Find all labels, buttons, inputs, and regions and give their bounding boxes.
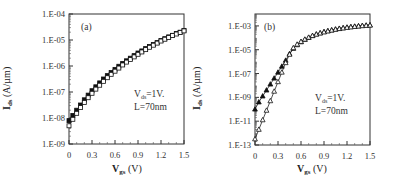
x-tick-label: 0.3 bbox=[273, 151, 284, 161]
data-point-square bbox=[155, 41, 159, 45]
panel-label-b: (b) bbox=[264, 22, 275, 33]
annotation-vds-a: Vds=1V. bbox=[134, 89, 164, 100]
data-point-triangle bbox=[260, 117, 265, 121]
data-point-square bbox=[178, 30, 182, 34]
y-tick-label: 1.E-05 bbox=[42, 35, 65, 45]
data-point-square bbox=[109, 72, 113, 76]
y-tick-label: 1.E-09 bbox=[228, 92, 251, 102]
data-point-square bbox=[117, 66, 121, 70]
plot-frame-a bbox=[69, 14, 184, 144]
x-tick-label: 0.6 bbox=[110, 150, 121, 160]
data-point-triangle bbox=[272, 89, 277, 93]
y-tick-label: 1.E-09 bbox=[42, 139, 65, 149]
data-point-square bbox=[67, 124, 71, 128]
data-point-square bbox=[94, 87, 98, 91]
x-tick-label: 0.6 bbox=[296, 151, 307, 161]
data-point-square bbox=[75, 111, 79, 115]
panel-label-a: (a) bbox=[81, 22, 92, 33]
data-point-triangle bbox=[279, 70, 284, 74]
data-point-square bbox=[67, 119, 71, 123]
x-axis-title-b: Vgs (V) bbox=[297, 163, 327, 176]
y-tick-label: 1.E-05 bbox=[228, 45, 251, 55]
data-point-square bbox=[102, 79, 106, 83]
x-tick-label: 0.9 bbox=[319, 151, 330, 161]
x-tick-label: 0.3 bbox=[87, 150, 98, 160]
data-point-square bbox=[148, 45, 152, 49]
panel-b: 1.E-031.E-051.E-071.E-091.E-111.E-13 00.… bbox=[191, 14, 375, 176]
data-point-square bbox=[167, 35, 171, 39]
data-point-square bbox=[159, 39, 163, 43]
data-point-square bbox=[151, 43, 155, 47]
data-point-square bbox=[82, 100, 86, 104]
x-tick-label: 0 bbox=[67, 150, 71, 160]
data-point-square bbox=[79, 106, 83, 110]
x-tick-label: 1.5 bbox=[365, 151, 376, 161]
data-point-square bbox=[140, 50, 144, 54]
x-tick-label: 1.2 bbox=[342, 151, 353, 161]
y-tick-label: 1.E-07 bbox=[42, 87, 65, 97]
data-point-square bbox=[144, 48, 148, 52]
x-ticks-a: 00.30.60.91.21.5 bbox=[67, 140, 189, 160]
y-tick-label: 1.E-13 bbox=[228, 140, 251, 150]
y-axis-title-a: Ids (A/µm) bbox=[1, 67, 14, 110]
data-point-square bbox=[171, 34, 175, 38]
x-tick-label: 0.9 bbox=[133, 150, 144, 160]
data-point-square bbox=[86, 96, 90, 100]
x-tick-label: 1.5 bbox=[179, 150, 190, 160]
annotation-length-b: L=70nm bbox=[315, 106, 348, 116]
data-point-square bbox=[132, 55, 136, 59]
data-point-square bbox=[121, 63, 125, 67]
x-tick-label: 0 bbox=[253, 151, 257, 161]
data-point-square bbox=[98, 83, 102, 87]
x-axis-title-a: Vgs (V) bbox=[112, 163, 142, 176]
panel-a: 1.E-041.E-051.E-061.E-071.E-081.E-09 00.… bbox=[1, 9, 189, 176]
data-point-square bbox=[128, 58, 132, 62]
data-point-square bbox=[71, 117, 75, 121]
y-ticks-b: 1.E-031.E-051.E-071.E-091.E-111.E-13 bbox=[228, 15, 259, 150]
data-point-square bbox=[105, 76, 109, 80]
data-point-triangle bbox=[264, 108, 269, 112]
y-tick-label: 1.E-07 bbox=[228, 69, 251, 79]
x-ticks-b: 00.30.60.91.21.5 bbox=[253, 141, 375, 161]
data-point-square bbox=[113, 69, 117, 73]
annotation-vds-b: Vds=1V. bbox=[315, 93, 345, 104]
series-a bbox=[67, 28, 186, 127]
y-tick-label: 1.E-03 bbox=[228, 21, 251, 31]
y-tick-label: 1.E-04 bbox=[42, 9, 66, 19]
data-point-square bbox=[125, 60, 129, 64]
y-tick-label: 1.E-06 bbox=[42, 61, 65, 71]
data-point-triangle bbox=[268, 98, 273, 102]
data-point-square bbox=[182, 29, 186, 33]
y-tick-label: 1.E-08 bbox=[42, 113, 65, 123]
x-tick-label: 1.2 bbox=[156, 150, 167, 160]
data-point-triangle bbox=[256, 127, 261, 131]
data-point-triangle bbox=[253, 136, 258, 140]
series-b bbox=[253, 22, 373, 140]
data-point-square bbox=[136, 52, 140, 56]
annotation-length-a: L=70nm bbox=[134, 102, 167, 112]
y-axis-title-b: Ids (A/µm) bbox=[191, 67, 204, 110]
data-point-square bbox=[90, 91, 94, 95]
data-point-square bbox=[163, 37, 167, 41]
y-tick-label: 1.E-11 bbox=[228, 116, 251, 126]
data-point-triangle bbox=[253, 107, 258, 111]
figure: 1.E-041.E-051.E-061.E-071.E-081.E-09 00.… bbox=[0, 0, 393, 192]
data-point-square bbox=[174, 32, 178, 36]
